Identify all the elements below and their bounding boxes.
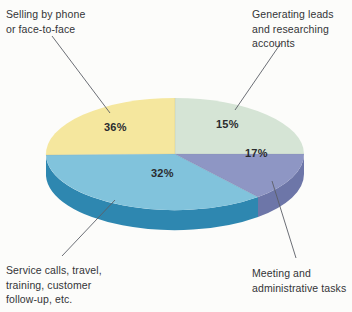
callout-label-selling: Selling by phone or face-to-face: [6, 7, 138, 36]
pie-slice-leads: [175, 98, 304, 154]
pie-slice-value-meeting: 17%: [245, 147, 268, 159]
callout-label-meeting: Meeting and administrative tasks: [252, 266, 352, 295]
pie-chart-figure: 36% 15% 17% 32% Selling by phone or face…: [0, 0, 352, 312]
leader-line-selling: [52, 36, 110, 113]
callout-label-leads: Generating leads and researching account…: [252, 7, 350, 51]
leader-line-leads: [235, 43, 281, 110]
callout-label-service: Service calls, travel, training, custome…: [6, 263, 146, 307]
pie-slice-value-selling: 36%: [104, 121, 127, 133]
pie-slice-value-leads: 15%: [216, 118, 239, 130]
pie-slice-value-service: 32%: [151, 167, 174, 179]
